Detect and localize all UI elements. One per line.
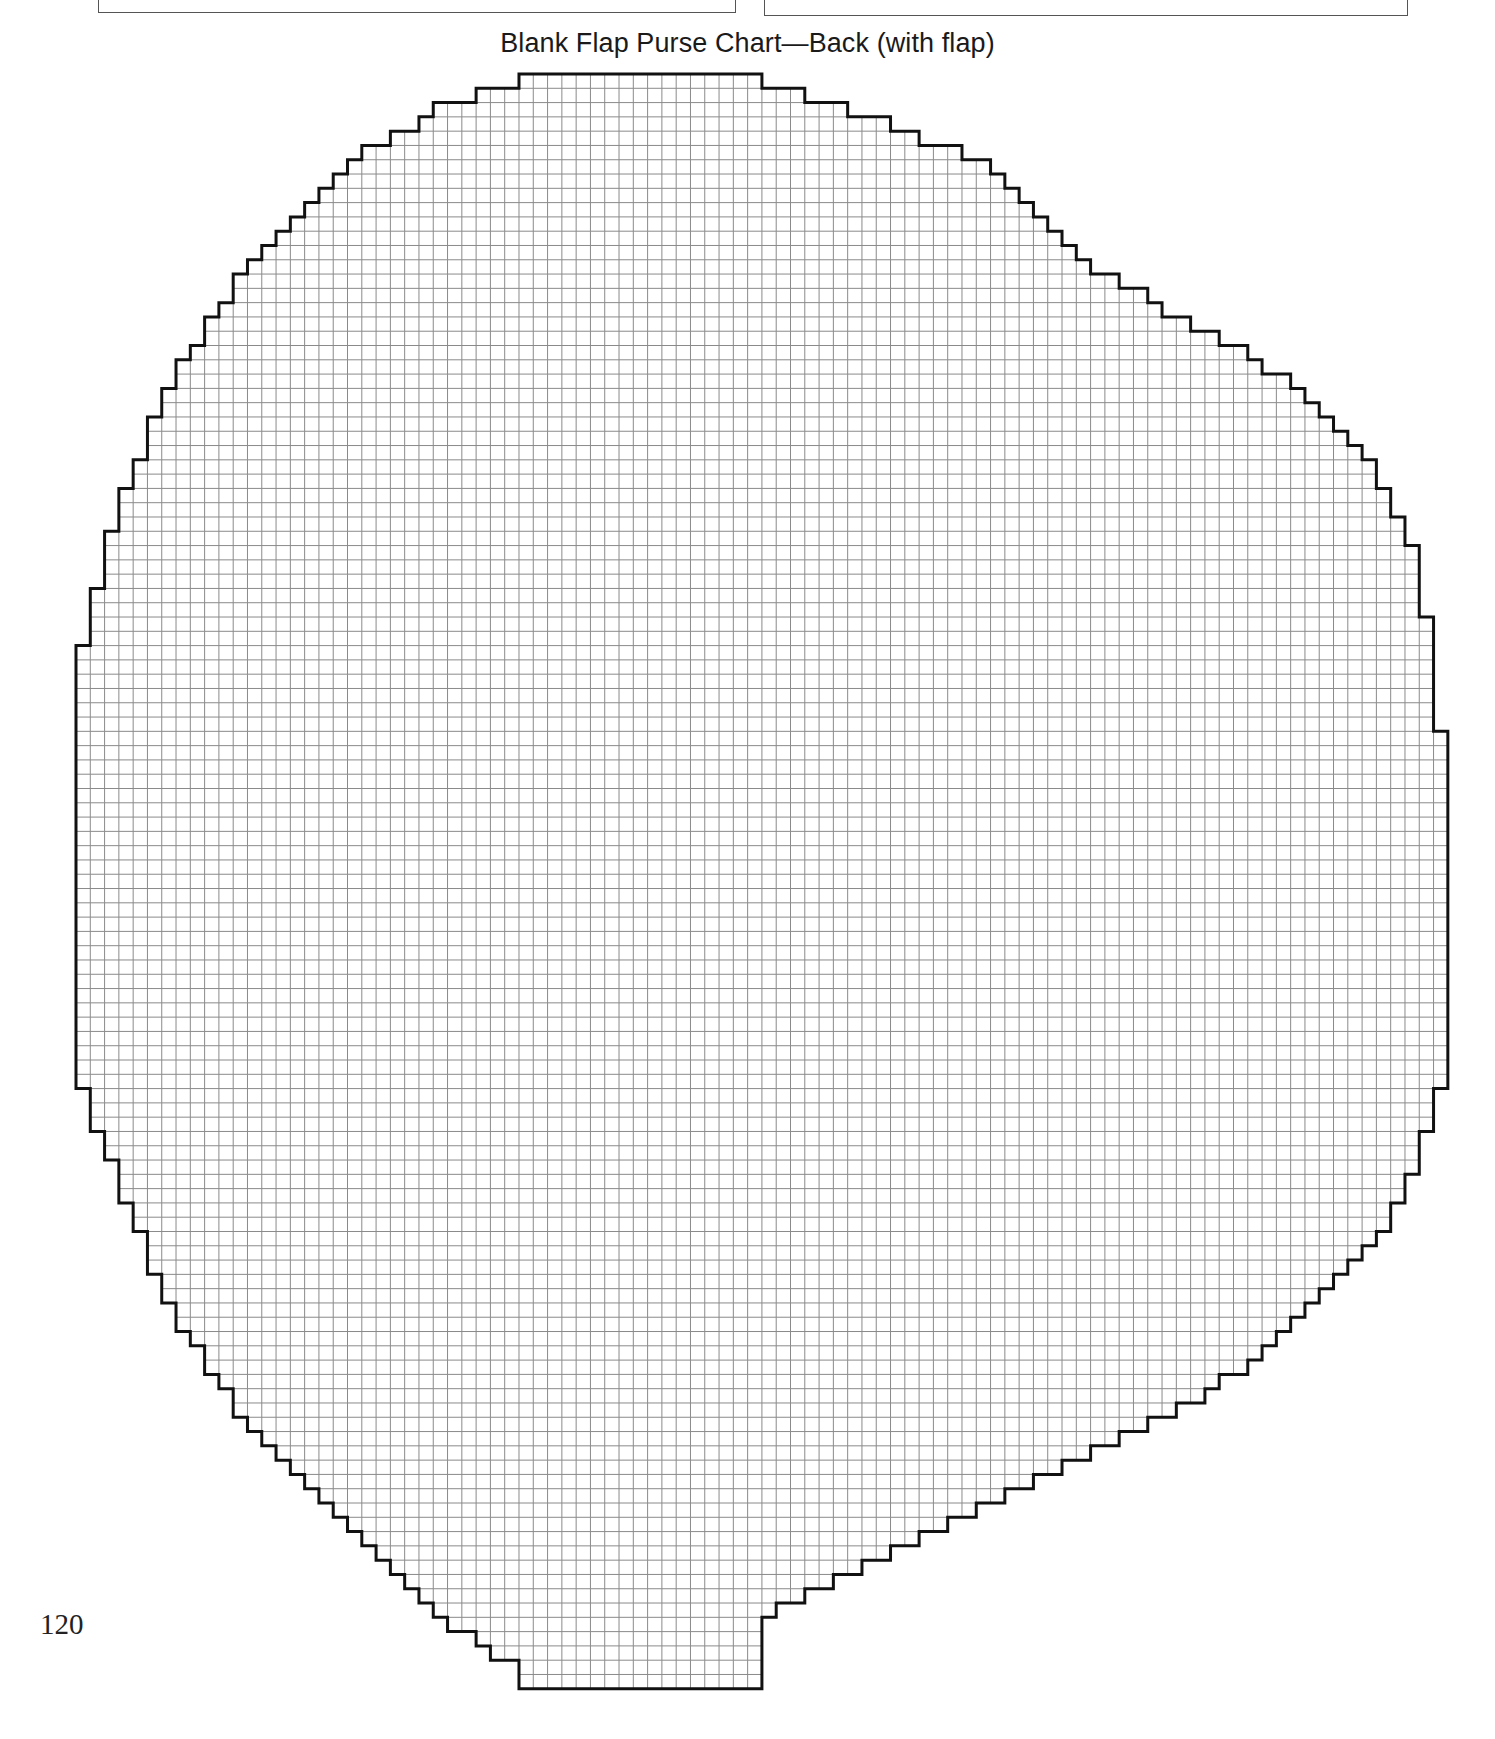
page-number: 120	[40, 1608, 84, 1641]
grid-lines	[76, 74, 1448, 1689]
purse-chart-grid	[0, 0, 1495, 1739]
